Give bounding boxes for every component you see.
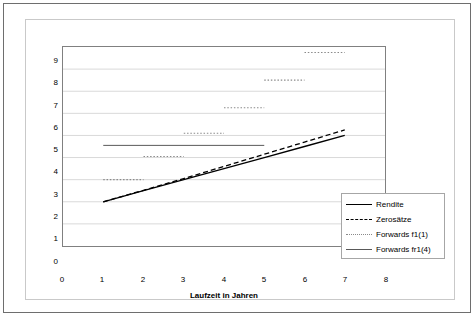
solid-gray-line-key (346, 245, 372, 255)
y-tick-label: 8 (36, 79, 58, 87)
chart-container: Zinssatz in % 9 8 7 6 5 4 3 2 1 0 0 1 2 … (25, 19, 455, 300)
x-tick-label: 4 (212, 276, 236, 284)
y-tick-label: 0 (36, 258, 58, 266)
legend-item-zerosaetze[interactable]: Zerosätze (342, 212, 444, 227)
gridlines (63, 69, 385, 224)
series-zeros-tze (103, 130, 345, 202)
series-line (103, 130, 345, 202)
x-tick-label: 0 (50, 276, 74, 284)
chart-canvas (63, 47, 385, 246)
series-forwards-f1-1 (103, 53, 345, 180)
y-tick-label: 6 (36, 124, 58, 132)
x-tick-label: 7 (333, 276, 357, 284)
legend-item-label: Forwards f1(1) (376, 230, 428, 239)
legend-item-label: Rendite (376, 200, 404, 209)
y-tick-label: 1 (36, 235, 58, 243)
dotted-line-key (346, 230, 372, 240)
chart-legend: Rendite Zerosätze Forwards f1(1) Forward… (341, 193, 445, 259)
x-tick-label: 3 (171, 276, 195, 284)
x-tick-label: 8 (374, 276, 398, 284)
y-tick-label: 9 (36, 57, 58, 65)
plot-area (62, 46, 386, 247)
x-axis-title: Laufzeit in Jahren (62, 291, 386, 300)
legend-item-forwards-f1-1[interactable]: Forwards f1(1) (342, 227, 444, 242)
y-tick-label: 2 (36, 213, 58, 221)
legend-item-label: Zerosätze (376, 215, 412, 224)
y-tick-label: 5 (36, 146, 58, 154)
document-frame: Zinssatz in % 9 8 7 6 5 4 3 2 1 0 0 1 2 … (3, 3, 471, 313)
x-tick-label: 2 (131, 276, 155, 284)
y-tick-label: 7 (36, 102, 58, 110)
x-tick-label: 5 (252, 276, 276, 284)
legend-item-label: Forwards fr1(4) (376, 245, 431, 254)
legend-item-forwards-fr1-4[interactable]: Forwards fr1(4) (342, 242, 444, 257)
dashed-line-key (346, 215, 372, 225)
x-tick-label: 6 (293, 276, 317, 284)
y-tick-label: 3 (36, 191, 58, 199)
solid-thin-line-key (346, 200, 372, 210)
y-tick-label: 4 (36, 168, 58, 176)
legend-item-rendite[interactable]: Rendite (342, 197, 444, 212)
x-tick-label: 1 (90, 276, 114, 284)
